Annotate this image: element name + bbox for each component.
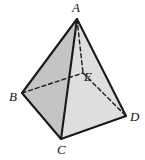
pyramid-figure: ) A B C D E (0, 0, 145, 160)
pyramid-drawing (0, 0, 145, 160)
vertex-label-e: E (84, 70, 92, 83)
vertex-label-d: D (130, 110, 139, 123)
vertex-label-a: A (72, 1, 80, 14)
vertex-label-c: C (57, 143, 66, 156)
vertex-label-b: B (9, 90, 17, 103)
